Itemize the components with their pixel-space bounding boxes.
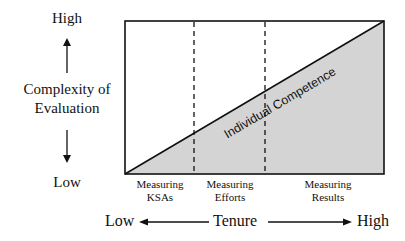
diagram-graphic: [0, 0, 405, 241]
y-axis-title-line2: Evaluation: [2, 99, 132, 118]
phase-efforts-line2: Efforts: [190, 191, 270, 204]
x-axis-high-label: High: [357, 212, 389, 230]
y-axis-high-label: High: [37, 9, 97, 28]
arrow-up-icon: [63, 38, 71, 73]
arrow-left-icon: [139, 219, 209, 226]
y-axis-low-label: Low: [37, 173, 97, 192]
phase-results-line1: Measuring: [288, 178, 368, 191]
x-axis-low-label: Low: [105, 212, 134, 230]
y-axis-title: Complexity of Evaluation: [2, 80, 132, 118]
phase-efforts: Measuring Efforts: [190, 178, 270, 204]
phase-ksas-line2: KSAs: [120, 191, 200, 204]
phase-results-line2: Results: [288, 191, 368, 204]
y-axis-title-line1: Complexity of: [2, 80, 132, 99]
arrow-down-icon: [63, 130, 71, 163]
phase-ksas-line1: Measuring: [120, 178, 200, 191]
x-axis-title: Tenure: [213, 212, 257, 230]
phase-results: Measuring Results: [288, 178, 368, 204]
arrow-right-icon: [268, 219, 352, 226]
phase-ksas: Measuring KSAs: [120, 178, 200, 204]
phase-efforts-line1: Measuring: [190, 178, 270, 191]
